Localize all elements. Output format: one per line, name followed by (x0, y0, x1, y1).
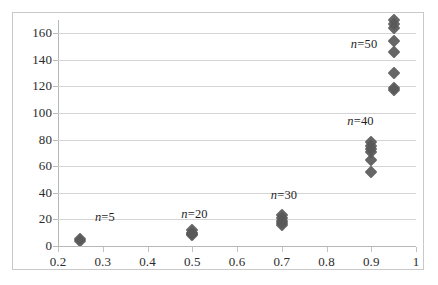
x-axis-tick-label: 0.3 (94, 254, 111, 270)
gridline-horizontal (58, 60, 416, 61)
series-label: n=20 (181, 207, 208, 222)
gridline-horizontal (58, 140, 416, 141)
x-axis-tick-label: 0.9 (363, 254, 380, 270)
y-axis-tick-label: 160 (32, 25, 52, 41)
x-axis-tick-label: 0.4 (139, 254, 156, 270)
plot-area: n=5n=20n=30n=40n=50 (58, 20, 416, 246)
x-axis-tick-mark (371, 247, 372, 252)
x-axis-tick-mark (58, 247, 59, 252)
x-axis-tick-label: 0.8 (318, 254, 335, 270)
series-label: n=30 (271, 188, 298, 203)
y-axis-tick-label: 120 (32, 78, 52, 94)
gridline-horizontal (58, 33, 416, 34)
y-axis-tick-label: 40 (39, 185, 52, 201)
y-axis-tick-label: 0 (45, 238, 52, 254)
series-label: n=40 (347, 114, 374, 129)
series-label-value: =30 (277, 188, 297, 202)
y-axis-tick-labels: 020406080100120140160 (0, 20, 52, 246)
x-axis-tick-label: 0.7 (273, 254, 290, 270)
x-axis-tick-mark (282, 247, 283, 252)
series-label-value: =5 (101, 209, 115, 223)
x-axis-tick-mark (192, 247, 193, 252)
scatter-chart: 020406080100120140160 n=5n=20n=30n=40n=5… (0, 0, 438, 285)
x-axis-tick-label: 1 (413, 254, 420, 270)
gridline-horizontal (58, 86, 416, 87)
gridline-horizontal (58, 193, 416, 194)
x-axis-tick-mark (103, 247, 104, 252)
x-axis-tick-mark (327, 247, 328, 252)
data-point (387, 46, 400, 59)
x-axis-tick-label: 0.5 (184, 254, 201, 270)
x-axis-tick-label: 0.2 (50, 254, 67, 270)
x-axis-tick-mark (237, 247, 238, 252)
x-axis-tick-label: 0.6 (229, 254, 246, 270)
x-axis-tick-mark (148, 247, 149, 252)
gridline-horizontal (58, 166, 416, 167)
y-axis-tick-label: 140 (32, 52, 52, 68)
x-axis-tick-mark (416, 247, 417, 252)
y-axis-tick-label: 20 (39, 211, 52, 227)
series-label-value: =40 (354, 114, 374, 128)
y-axis-tick-label: 100 (32, 105, 52, 121)
data-point (387, 67, 400, 80)
series-label-value: =20 (188, 207, 208, 221)
series-label: n=5 (95, 209, 115, 224)
y-axis-tick-label: 60 (39, 158, 52, 174)
series-label-value: =50 (357, 36, 377, 50)
series-label: n=50 (351, 36, 378, 51)
y-axis-tick-label: 80 (39, 132, 52, 148)
